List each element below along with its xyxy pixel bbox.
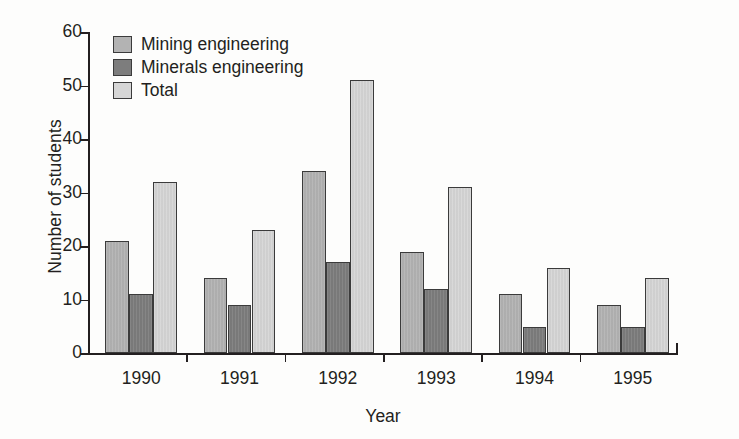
bar bbox=[621, 327, 645, 354]
bar bbox=[523, 327, 547, 354]
bar bbox=[105, 241, 129, 353]
chart-legend: Mining engineeringMinerals engineeringTo… bbox=[113, 34, 303, 101]
bar bbox=[448, 187, 472, 353]
bar bbox=[302, 171, 326, 353]
y-axis-tick-label: 40 bbox=[42, 128, 82, 149]
legend-item: Total bbox=[113, 80, 303, 101]
bar bbox=[424, 289, 448, 353]
x-axis-tick-mark bbox=[580, 353, 582, 362]
bar bbox=[645, 278, 669, 353]
bar bbox=[129, 294, 153, 353]
y-axis-tick-label: 60 bbox=[42, 21, 82, 42]
x-axis-end-cap bbox=[676, 343, 678, 354]
x-axis-tick-mark bbox=[285, 353, 287, 362]
legend-item: Minerals engineering bbox=[113, 57, 303, 78]
legend-label: Minerals engineering bbox=[141, 59, 303, 77]
bar bbox=[252, 230, 276, 353]
legend-item: Mining engineering bbox=[113, 34, 303, 55]
x-axis-tick-label: 1994 bbox=[515, 368, 554, 389]
y-axis-line bbox=[88, 32, 90, 355]
x-axis-tick-mark bbox=[481, 353, 483, 362]
y-axis-tick-label: 50 bbox=[42, 75, 82, 96]
bar-chart-figure: Number of students 0102030405060 1990199… bbox=[0, 0, 739, 439]
bar bbox=[153, 182, 177, 353]
bar bbox=[400, 252, 424, 354]
bar bbox=[350, 80, 374, 353]
legend-swatch bbox=[113, 82, 132, 99]
x-axis-tick-label: 1993 bbox=[417, 368, 456, 389]
x-axis-tick-label: 1995 bbox=[613, 368, 652, 389]
x-axis-label: Year bbox=[88, 406, 678, 427]
bar bbox=[228, 305, 252, 353]
y-axis-tick-label: 0 bbox=[42, 342, 82, 363]
legend-label: Mining engineering bbox=[141, 36, 289, 54]
y-axis-tick-label: 30 bbox=[42, 182, 82, 203]
legend-swatch bbox=[113, 36, 132, 53]
x-axis-tick-mark bbox=[186, 353, 188, 362]
bar bbox=[597, 305, 621, 353]
bar bbox=[499, 294, 523, 353]
y-axis-tick-label: 20 bbox=[42, 235, 82, 256]
x-axis-tick-mark bbox=[383, 353, 385, 362]
bar bbox=[204, 278, 228, 353]
bar bbox=[326, 262, 350, 353]
bar bbox=[547, 268, 571, 354]
legend-swatch bbox=[113, 59, 132, 76]
x-axis-tick-label: 1990 bbox=[122, 368, 161, 389]
x-axis-tick-label: 1992 bbox=[318, 368, 357, 389]
x-axis-tick-label: 1991 bbox=[220, 368, 259, 389]
y-axis-tick-label: 10 bbox=[42, 289, 82, 310]
legend-label: Total bbox=[141, 82, 178, 100]
